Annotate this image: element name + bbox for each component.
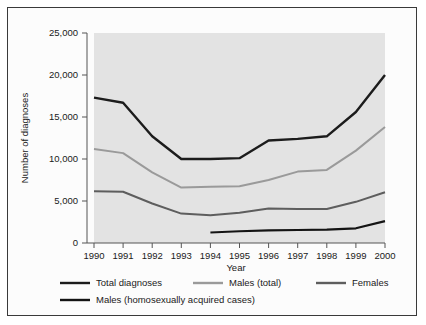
y-tick-label: 5,000 bbox=[54, 195, 78, 206]
legend-label: Males (total) bbox=[229, 277, 281, 288]
x-axis-ticks bbox=[94, 243, 385, 248]
line-chart: 05,00010,00015,00020,00025,000 199019911… bbox=[8, 8, 416, 315]
legend-label: Males (homosexually acquired cases) bbox=[96, 294, 255, 305]
y-tick-label: 15,000 bbox=[49, 111, 78, 122]
x-axis-title: Year bbox=[226, 262, 245, 273]
plot-background bbox=[94, 33, 385, 243]
x-tick-label: 1998 bbox=[316, 250, 337, 261]
y-axis-ticks bbox=[82, 33, 87, 243]
x-tick-label: 1990 bbox=[83, 250, 104, 261]
x-tick-label: 1995 bbox=[229, 250, 250, 261]
chart-frame: 05,00010,00015,00020,00025,000 199019911… bbox=[7, 7, 417, 316]
x-tick-label: 1991 bbox=[113, 250, 134, 261]
x-tick-label: 1993 bbox=[171, 250, 192, 261]
chart-page: 05,00010,00015,00020,00025,000 199019911… bbox=[0, 0, 426, 325]
legend-label: Females bbox=[352, 277, 389, 288]
y-tick-label: 20,000 bbox=[49, 69, 78, 80]
y-axis-tick-labels: 05,00010,00015,00020,00025,000 bbox=[49, 27, 78, 248]
x-tick-label: 1997 bbox=[287, 250, 308, 261]
y-tick-label: 10,000 bbox=[49, 153, 78, 164]
x-tick-label: 1994 bbox=[200, 250, 221, 261]
x-tick-label: 1999 bbox=[345, 250, 366, 261]
x-tick-label: 1992 bbox=[142, 250, 163, 261]
legend-label: Total diagnoses bbox=[96, 277, 162, 288]
y-axis-title: Number of diagnoses bbox=[19, 93, 30, 184]
chart-legend: Total diagnosesMales (total)FemalesMales… bbox=[60, 277, 389, 305]
x-tick-label: 1996 bbox=[258, 250, 279, 261]
y-tick-label: 0 bbox=[73, 237, 78, 248]
y-tick-label: 25,000 bbox=[49, 27, 78, 38]
x-tick-label: 2000 bbox=[374, 250, 395, 261]
x-axis-tick-labels: 1990199119921993199419951996199719981999… bbox=[83, 250, 395, 261]
